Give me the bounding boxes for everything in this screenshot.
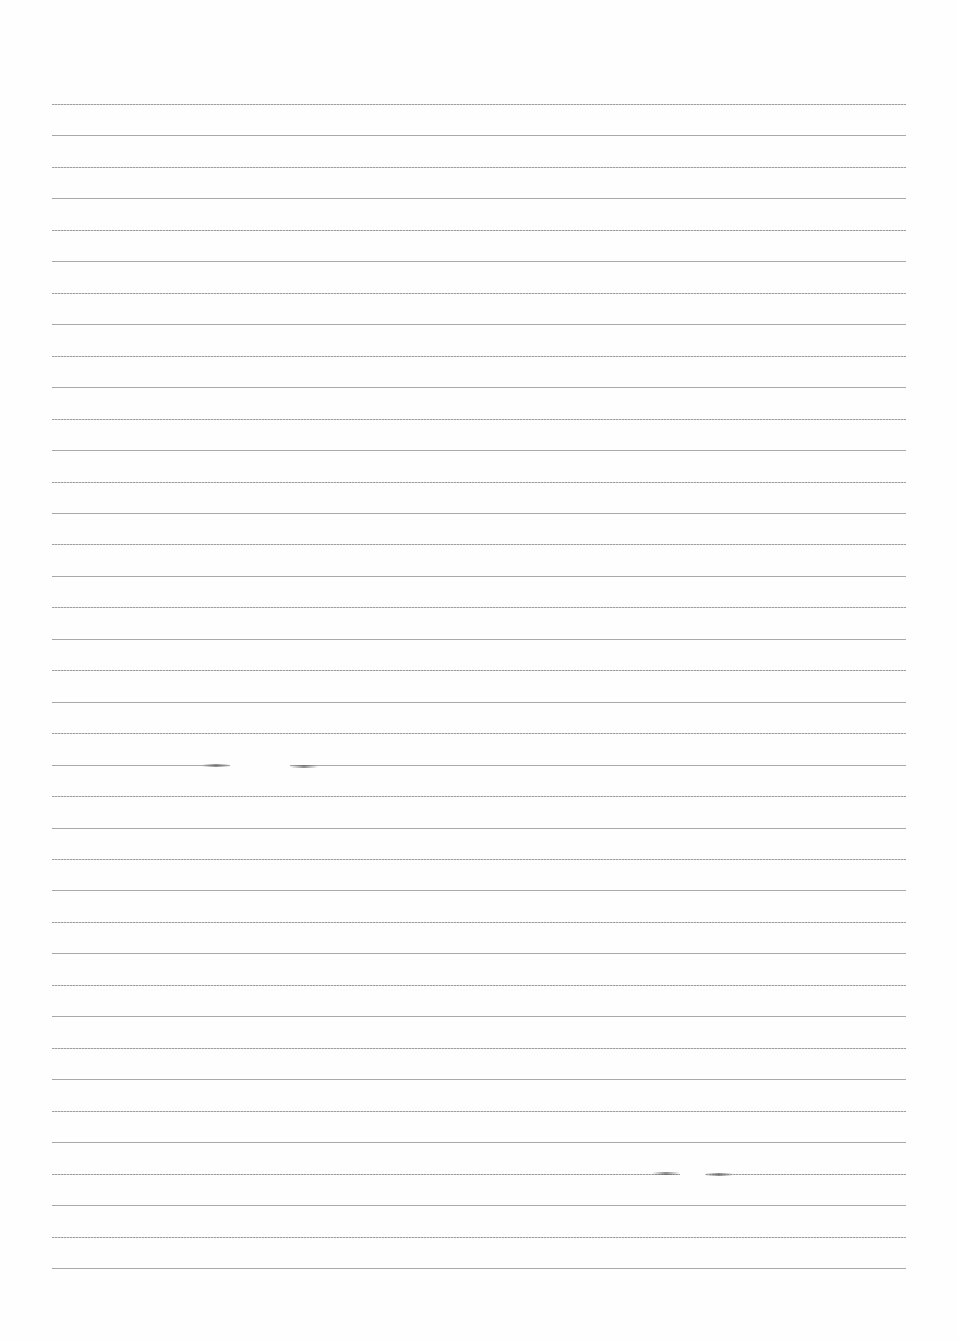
ruled-line <box>52 261 906 262</box>
ink-smudge <box>202 764 230 767</box>
ruled-line <box>52 387 906 388</box>
ruled-line <box>52 639 906 640</box>
ruled-paper-page <box>0 0 959 1340</box>
ink-smudge <box>705 1173 733 1176</box>
ruled-line <box>52 859 906 860</box>
ruled-line <box>52 513 906 514</box>
ruled-line <box>52 356 906 357</box>
ruled-line <box>52 293 906 294</box>
ruled-line <box>52 796 906 797</box>
ink-smudge <box>290 765 318 768</box>
ruled-line <box>52 1237 906 1238</box>
ruled-line <box>52 135 906 136</box>
ruled-line <box>52 953 906 954</box>
ruled-line <box>52 607 906 608</box>
ruled-line <box>52 230 906 231</box>
ruled-line <box>52 104 906 105</box>
ruled-line <box>52 922 906 923</box>
ink-smudge <box>652 1172 680 1175</box>
ruled-line <box>52 1174 906 1175</box>
ruled-line <box>52 482 906 483</box>
ruled-line <box>52 167 906 168</box>
ruled-line <box>52 1111 906 1112</box>
ruled-line <box>52 419 906 420</box>
ruled-line <box>52 890 906 891</box>
ruled-line <box>52 985 906 986</box>
ruled-line <box>52 1142 906 1143</box>
ruled-line <box>52 1079 906 1080</box>
ruled-line <box>52 670 906 671</box>
ruled-line <box>52 1205 906 1206</box>
ruled-line <box>52 576 906 577</box>
ruled-line <box>52 198 906 199</box>
ruled-line <box>52 1268 906 1269</box>
ruled-line <box>52 450 906 451</box>
ruled-line <box>52 1048 906 1049</box>
ruled-line <box>52 544 906 545</box>
ruled-line <box>52 733 906 734</box>
ruled-line <box>52 324 906 325</box>
ruled-line <box>52 702 906 703</box>
line-gap <box>230 763 290 768</box>
ruled-line <box>52 1016 906 1017</box>
ruled-line <box>52 765 906 766</box>
line-gap <box>680 1171 705 1176</box>
ruled-line <box>52 828 906 829</box>
